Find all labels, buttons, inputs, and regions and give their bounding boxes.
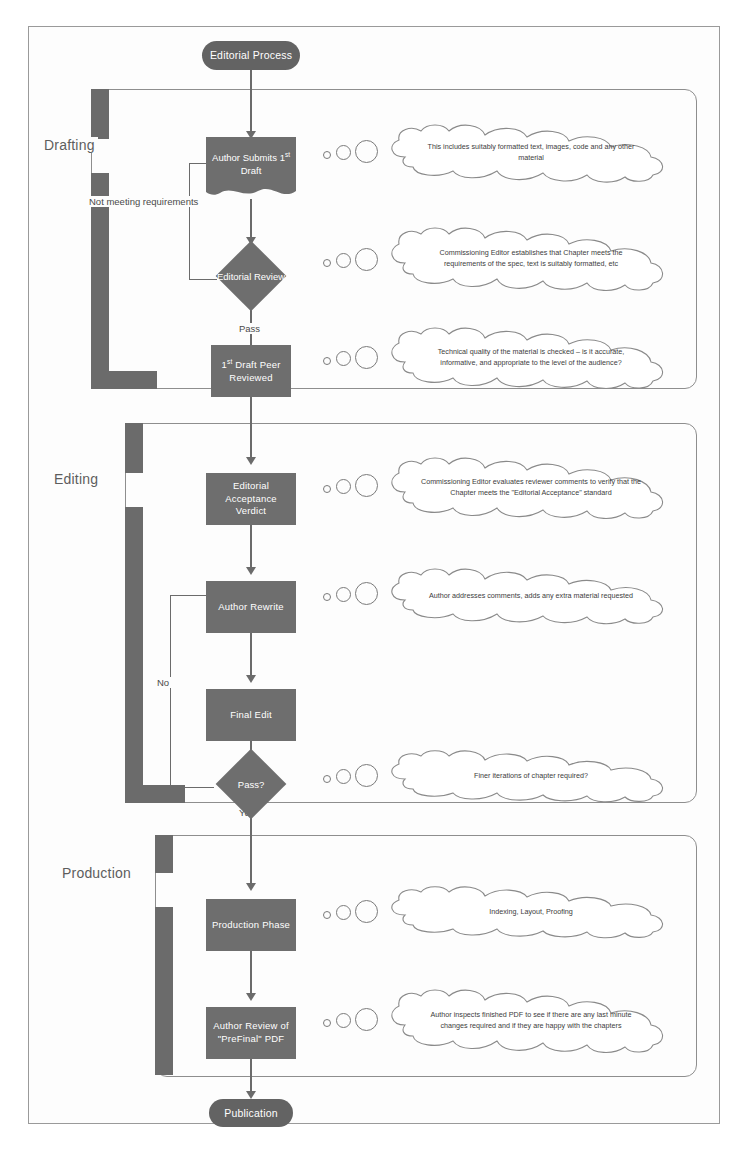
arrowhead-pass-to-production	[246, 883, 256, 891]
callout-peer: Technical quality of the material is che…	[381, 325, 681, 391]
bubble-trail-dot-mid-6	[336, 769, 351, 784]
edge-label-no: No	[155, 677, 171, 688]
band-editing	[125, 423, 143, 473]
node-editorial-review-label: Editorial Review	[215, 245, 287, 307]
node-production-phase-label: Production Phase	[212, 919, 290, 932]
node-peer-review-label: 1st Draft Peer Reviewed	[215, 358, 287, 385]
callout-rewrite-text: Author addresses comments, adds any extr…	[381, 567, 681, 625]
phase-label-editing: Editing	[51, 471, 101, 487]
bubble-trail-dot-mid-7	[336, 905, 351, 920]
arrowhead-rewrite-to-finaledit	[246, 675, 256, 683]
bubble-trail-dot-small-6	[323, 775, 331, 783]
node-author-rewrite-label: Author Rewrite	[218, 601, 284, 614]
edge-review-loop-h-bottom	[189, 279, 217, 280]
callout-submit-text: This includes suitably formatted text, i…	[381, 123, 681, 183]
bubble-trail-dot-large-2	[355, 248, 378, 271]
edge-production-to-authorreview	[250, 951, 252, 999]
phase-label-drafting: Drafting	[41, 137, 98, 153]
callout-review: Commissioning Editor establishes that Ch…	[381, 225, 681, 293]
arrowhead-peer-to-verdict	[246, 457, 256, 465]
node-peer-review[interactable]: 1st Draft Peer Reviewed	[211, 345, 291, 397]
bubble-trail-dot-mid-2	[336, 253, 351, 268]
edge-pass-no-h-bottom	[170, 787, 214, 788]
node-editorial-acceptance-verdict[interactable]: Editorial Acceptance Verdict	[206, 473, 296, 525]
bubble-trail-dot-small-1	[323, 151, 331, 159]
node-editorial-review[interactable]: Editorial Review	[215, 245, 287, 307]
node-start[interactable]: Editorial Process	[202, 41, 300, 70]
edge-label-not-meeting: Not meeting requirements	[87, 196, 200, 207]
node-editorial-acceptance-verdict-label: Editorial Acceptance Verdict	[210, 480, 292, 518]
node-author-review-prefinal-label: Author Review of "PreFinal" PDF	[210, 1020, 292, 1046]
edge-pass-to-production	[250, 815, 252, 889]
node-author-review-prefinal[interactable]: Author Review of "PreFinal" PDF	[206, 1007, 296, 1059]
bubble-trail-dot-mid-1	[336, 145, 351, 160]
node-final-edit[interactable]: Final Edit	[206, 689, 296, 741]
node-end[interactable]: Publication	[209, 1099, 293, 1127]
callout-rewrite: Author addresses comments, adds any extr…	[381, 567, 681, 625]
callout-peer-text: Technical quality of the material is che…	[381, 325, 681, 391]
edge-label-pass: Pass	[237, 323, 262, 334]
bubble-trail-dot-small-3	[323, 357, 331, 365]
edge-verdict-to-rewrite	[250, 525, 252, 573]
node-end-label: Publication	[224, 1106, 278, 1120]
callout-review-text: Commissioning Editor establishes that Ch…	[381, 225, 681, 293]
phase-label-production: Production	[59, 865, 134, 881]
bubble-trail-dot-large-3	[355, 346, 378, 369]
edge-start-to-submit	[250, 69, 252, 137]
bubble-trail-dot-large-5	[355, 582, 378, 605]
callout-authorreview-text: Author inspects finished PDF to see if t…	[381, 987, 681, 1055]
bubble-trail-dot-mid-4	[336, 479, 351, 494]
band-production	[155, 835, 173, 873]
node-author-rewrite[interactable]: Author Rewrite	[206, 581, 296, 633]
edge-pass-no-v	[170, 595, 171, 788]
bubble-trail-dot-small-4	[323, 485, 331, 493]
node-pass-decision[interactable]: Pass?	[213, 753, 289, 815]
arrowhead-verdict-to-rewrite	[246, 567, 256, 575]
edge-review-loop-v	[189, 163, 190, 280]
bubble-trail-dot-small-2	[323, 259, 331, 267]
band-drafting-foot	[91, 371, 157, 389]
bubble-trail-dot-mid-3	[336, 351, 351, 366]
bubble-trail-dot-large-7	[355, 900, 378, 923]
flowchart-page: Drafting Editing Production Not meeting …	[0, 0, 746, 1149]
bubble-trail-dot-small-7	[323, 911, 331, 919]
bubble-trail-dot-mid-5	[336, 587, 351, 602]
node-pass-decision-label: Pass?	[213, 753, 289, 815]
node-final-edit-label: Final Edit	[230, 709, 272, 722]
node-submit-label: Author Submits 1st Draft	[206, 151, 296, 178]
callout-verdict-text: Commissioning Editor evaluates reviewer …	[381, 455, 681, 521]
band-production-lower	[155, 907, 173, 1075]
arrowhead-production-to-authorreview	[246, 993, 256, 1001]
bubble-trail-dot-small-5	[323, 593, 331, 601]
node-start-label: Editorial Process	[210, 48, 292, 62]
node-production-phase[interactable]: Production Phase	[206, 899, 296, 951]
callout-production: Indexing, Layout, Proofing	[381, 885, 681, 939]
callout-pass-text: Finer iterations of chapter required?	[381, 749, 681, 803]
edge-peer-to-verdict	[250, 397, 252, 463]
bubble-trail-dot-mid-8	[336, 1013, 351, 1028]
band-editing-lower	[125, 507, 143, 803]
callout-pass: Finer iterations of chapter required?	[381, 749, 681, 803]
bubble-trail-dot-small-8	[323, 1019, 331, 1027]
bubble-trail-dot-large-4	[355, 474, 378, 497]
diagram-frame: Drafting Editing Production Not meeting …	[28, 26, 720, 1124]
bubble-trail-dot-large-1	[355, 140, 378, 163]
edge-rewrite-to-finaledit	[250, 633, 252, 681]
bubble-trail-dot-large-6	[355, 764, 378, 787]
node-submit[interactable]: Author Submits 1st Draft	[206, 137, 296, 201]
band-drafting	[91, 89, 109, 139]
callout-verdict: Commissioning Editor evaluates reviewer …	[381, 455, 681, 521]
node-submit-label-wrap: Author Submits 1st Draft	[206, 137, 296, 191]
callout-submit: This includes suitably formatted text, i…	[381, 123, 681, 183]
callout-production-text: Indexing, Layout, Proofing	[381, 885, 681, 939]
bubble-trail-dot-large-8	[355, 1008, 378, 1031]
callout-authorreview: Author inspects finished PDF to see if t…	[381, 987, 681, 1055]
arrowhead-authorreview-to-end	[246, 1091, 256, 1099]
